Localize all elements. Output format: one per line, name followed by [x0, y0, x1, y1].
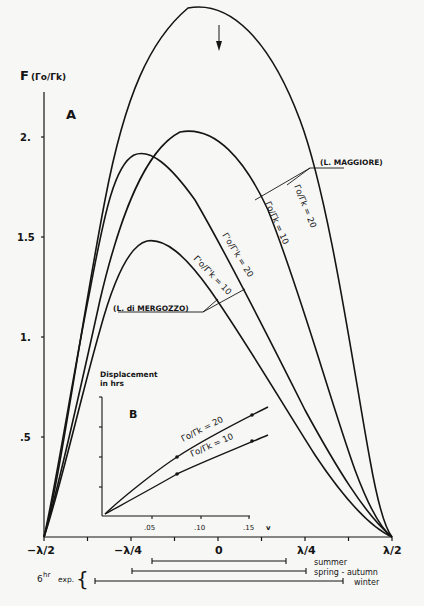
exp-label: exp. [58, 575, 74, 584]
inset-curve-20 [105, 407, 268, 514]
inset-xtick-15: .15 [243, 524, 254, 532]
curve-maggiore-10 [44, 131, 392, 537]
inset-curve-10 [105, 435, 268, 514]
figure: F (Γo/Γk) A 2. 1.5 1. .5 −λ/2 −λ/4 0 λ/4… [0, 0, 424, 606]
label-maggiore: (L. MAGGIORE) [320, 158, 383, 167]
label-maggiore-10: Γo/Γk = 10 [263, 200, 291, 246]
panel-label-b: B [129, 408, 137, 421]
inset-xtick-05: .05 [144, 524, 155, 532]
label-summer: summer [314, 558, 348, 567]
y-axis-title-f: F [20, 68, 29, 83]
inset-ylabel-1: Displacement [100, 370, 158, 379]
x-tick-zero: 0 [215, 544, 223, 557]
x-tick-plus-half: λ/2 [383, 544, 402, 557]
y-tick-0-5: .5 [20, 432, 31, 443]
panel-label-a: A [66, 107, 76, 122]
exp-hr: hr [43, 571, 50, 579]
y-axis-title-ratio: (Γo/Γk) [31, 72, 66, 82]
label-maggiore-20: Γo/Γk = 20 [292, 183, 318, 229]
inset-ylabel-2: in hrs [100, 379, 125, 388]
arrow-down-icon [216, 25, 222, 51]
brace-icon: { [76, 567, 89, 591]
label-spring-autumn: spring - autumn [314, 568, 378, 577]
inset-xlabel-v: v [266, 524, 271, 532]
label-mergozzo: (L. di MERGOZZO) [113, 304, 189, 313]
label-winter: winter [354, 578, 380, 587]
inset-b: Displacement in hrs B Γo/Γk = 20 Γo/Γk =… [99, 370, 271, 532]
inset-xtick-10: .10 [194, 524, 205, 532]
y-tick-1: 1. [20, 332, 31, 343]
y-tick-1-5: 1.5 [17, 232, 35, 243]
exposure-legend: 6 hr exp. { summer spring - autumn winte… [37, 558, 380, 591]
y-tick-2: 2. [20, 132, 31, 143]
x-tick-plus-quarter: λ/4 [297, 544, 316, 557]
x-tick-minus-half: −λ/2 [27, 544, 55, 557]
x-tick-minus-quarter: −λ/4 [114, 544, 142, 557]
